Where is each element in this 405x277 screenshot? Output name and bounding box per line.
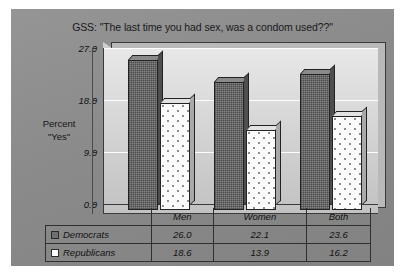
legend-item-republicans[interactable]: Republicans (46, 244, 152, 262)
y-axis-title: Percent "Yes" (23, 117, 95, 143)
legend-swatch-republicans (51, 249, 59, 257)
bars-layer (104, 48, 379, 220)
value-democrats-women: 22.1 (213, 226, 306, 244)
bar-front-face (160, 103, 190, 210)
value-democrats-men: 26.0 (152, 226, 214, 244)
data-table: Men Women Both Democrats 26.0 22.1 23.6 … (45, 208, 371, 262)
y-axis-spine (92, 48, 93, 214)
bar-front-face (246, 130, 276, 210)
chart-title: GSS: "The last time you had sex, was a c… (11, 21, 394, 33)
bar-front-face (300, 74, 330, 210)
y-tick-label-18: 18.0 (51, 95, 97, 106)
bar-republicans-men[interactable] (160, 103, 190, 210)
chart-panel: GSS: "The last time you had sex, was a c… (11, 9, 394, 266)
column-header-women: Women (213, 208, 306, 226)
plot-face (103, 48, 378, 214)
bar-democrats-both[interactable] (300, 74, 330, 210)
legend-swatch-democrats (51, 231, 59, 239)
value-democrats-both: 23.6 (307, 226, 371, 244)
bar-democrats-men[interactable] (128, 60, 158, 210)
column-header-both: Both (307, 208, 371, 226)
bar-front-face (332, 116, 362, 210)
legend-label-republicans: Republicans (63, 247, 115, 258)
value-republicans-men: 18.6 (152, 244, 214, 262)
bar-side-face (190, 93, 195, 205)
column-header-men: Men (152, 208, 214, 226)
bar-democrats-women[interactable] (214, 82, 244, 210)
legend-label-democrats: Democrats (63, 229, 109, 240)
table-corner-cell (46, 208, 152, 226)
value-republicans-both: 16.2 (307, 244, 371, 262)
y-axis-title-line-2: "Yes" (23, 130, 95, 143)
bar-front-face (214, 82, 244, 210)
y-tick-label-27: 27.0 (51, 43, 97, 54)
y-axis-title-line-1: Percent (23, 117, 95, 130)
table-header-row: Men Women Both (46, 208, 371, 226)
legend-item-democrats[interactable]: Democrats (46, 226, 152, 244)
bar-republicans-both[interactable] (332, 116, 362, 210)
chart-container: GSS: "The last time you had sex, was a c… (0, 0, 405, 277)
plot-area (103, 42, 386, 214)
table-row-democrats: Democrats 26.0 22.1 23.6 (46, 226, 371, 244)
y-tick-label-9: 9.0 (51, 147, 97, 158)
bar-republicans-women[interactable] (246, 130, 276, 210)
table-row-republicans: Republicans 18.6 13.9 16.2 (46, 244, 371, 262)
value-republicans-women: 13.9 (213, 244, 306, 262)
bar-side-face (362, 106, 367, 205)
bar-front-face (128, 60, 158, 210)
bar-side-face (276, 120, 281, 205)
